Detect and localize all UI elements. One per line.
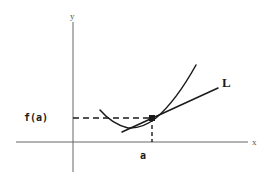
point-x-label: a xyxy=(140,151,146,161)
tangent-line-label: L xyxy=(222,76,231,89)
y-axis-label: y xyxy=(70,12,75,21)
tangent-line-figure: y x f(a) a L xyxy=(0,0,274,184)
tangency-point-marker xyxy=(149,115,155,121)
x-axis-label: x xyxy=(252,138,257,147)
tangent-line xyxy=(122,88,218,132)
function-value-label: f(a) xyxy=(24,113,48,123)
figure-canvas xyxy=(0,0,274,184)
